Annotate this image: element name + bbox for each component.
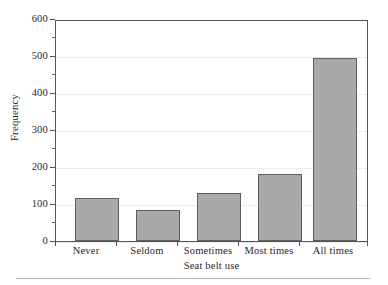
y-tick-major-100 bbox=[50, 204, 55, 205]
y-tick-minor-450 bbox=[52, 74, 55, 75]
x-tick-label-sometimes: Sometimes bbox=[177, 245, 239, 257]
y-tick-minor-150 bbox=[52, 185, 55, 186]
gridline-0 bbox=[56, 242, 367, 243]
bar-all-times bbox=[313, 58, 357, 241]
x-tick-label-never: Never bbox=[55, 245, 117, 257]
y-tick-minor-550 bbox=[52, 37, 55, 38]
x-tick-label-all-times: All times bbox=[299, 245, 367, 257]
x-tick-label-most-times: Most times bbox=[238, 245, 300, 257]
y-tick-major-600 bbox=[50, 19, 55, 20]
y-tick-label-100: 100 bbox=[8, 199, 48, 210]
y-tick-major-500 bbox=[50, 56, 55, 57]
bar-seldom bbox=[136, 210, 180, 241]
bar-never bbox=[75, 198, 119, 242]
y-tick-label-0: 0 bbox=[8, 236, 48, 247]
y-tick-label-400: 400 bbox=[8, 88, 48, 99]
footer-divider bbox=[16, 278, 370, 279]
bar-sometimes bbox=[197, 193, 241, 241]
y-tick-label-600: 600 bbox=[8, 14, 48, 25]
x-tick-5 bbox=[367, 242, 368, 246]
y-tick-major-300 bbox=[50, 130, 55, 131]
bar-most-times bbox=[258, 174, 302, 241]
y-tick-minor-350 bbox=[52, 111, 55, 112]
y-tick-label-200: 200 bbox=[8, 162, 48, 173]
y-tick-minor-250 bbox=[52, 148, 55, 149]
x-axis-title: Seat belt use bbox=[55, 260, 368, 271]
y-tick-label-500: 500 bbox=[8, 51, 48, 62]
x-tick-label-seldom: Seldom bbox=[116, 245, 178, 257]
y-tick-minor-50 bbox=[52, 222, 55, 223]
bar-chart-figure: Frequency 0 100 200 300 400 500 600 Neve… bbox=[0, 0, 388, 285]
y-tick-major-400 bbox=[50, 93, 55, 94]
plot-area bbox=[55, 20, 368, 242]
y-tick-major-200 bbox=[50, 167, 55, 168]
y-tick-label-300: 300 bbox=[8, 125, 48, 136]
